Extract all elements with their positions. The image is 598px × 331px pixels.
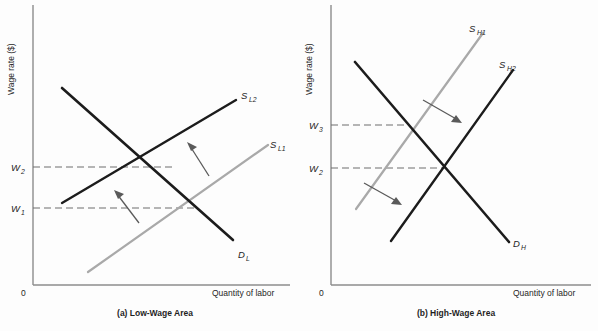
panel-a-plot: W 2 W 1 S L2 S L1 D L 0 Wage rate ($) Qu…: [0, 0, 299, 331]
panel-high-wage-area: W 3 W 2 S H1 S H2 D H 0 Wage rate ($) Qu…: [299, 0, 598, 331]
caption-panel-b: (b) High-Wage Area: [417, 308, 496, 318]
curve-sublabel-dh: H: [521, 244, 526, 251]
y-axis-title-a: Wage rate ($): [6, 43, 16, 95]
curve-label-dh: D: [513, 238, 520, 249]
origin-label-a: 0: [21, 288, 26, 298]
curve-label-sh2: S: [499, 59, 506, 70]
y-axis-title-b: Wage rate ($): [304, 43, 314, 95]
figure-container: W 2 W 1 S L2 S L1 D L 0 Wage rate ($) Qu…: [0, 0, 598, 331]
x-axis-title-b: Quantity of labor: [513, 288, 576, 298]
tick-label-w3-b: W: [309, 120, 319, 131]
supply-shift-arrow-lower-a: [114, 190, 139, 223]
supply-shift-arrow-upper-a: [187, 142, 209, 176]
panel-b-plot: W 3 W 2 S H1 S H2 D H 0 Wage rate ($) Qu…: [299, 0, 598, 331]
curve-sublabel-sh2: H2: [507, 65, 516, 72]
curve-demand-dl: [62, 88, 233, 240]
supply-shift-arrow-lower-b: [364, 183, 402, 205]
tick-sublabel-w2-a: 2: [20, 168, 25, 175]
x-axis-title-a: Quantity of labor: [212, 288, 275, 298]
curve-demand-dh: [355, 62, 509, 242]
curve-sublabel-sh1: H1: [477, 29, 486, 36]
supply-shift-arrow-upper-b: [423, 100, 462, 123]
caption-panel-a: (a) Low-Wage Area: [117, 308, 193, 318]
curve-label-sl1: S: [270, 139, 277, 150]
curve-label-dl: D: [238, 249, 245, 260]
curve-label-sh1: S: [469, 23, 476, 34]
tick-sublabel-w2-b: 2: [318, 169, 323, 176]
curve-supply-sh1: [356, 33, 483, 209]
panel-low-wage-area: W 2 W 1 S L2 S L1 D L 0 Wage rate ($) Qu…: [0, 0, 299, 331]
origin-label-b: 0: [319, 288, 324, 298]
tick-label-w1-a: W: [11, 203, 21, 214]
curve-sublabel-dl: L: [246, 255, 250, 262]
curve-supply-sh2: [391, 70, 513, 241]
tick-sublabel-w3-b: 3: [319, 126, 323, 133]
tick-label-w2-b: W: [309, 163, 319, 174]
curve-sublabel-sl1: L1: [278, 145, 286, 152]
tick-label-w2-a: W: [11, 162, 21, 173]
curve-sublabel-sl2: L2: [249, 96, 257, 103]
curve-label-sl2: S: [241, 90, 248, 101]
curve-supply-sl2: [62, 100, 236, 203]
tick-sublabel-w1-a: 1: [21, 209, 25, 216]
